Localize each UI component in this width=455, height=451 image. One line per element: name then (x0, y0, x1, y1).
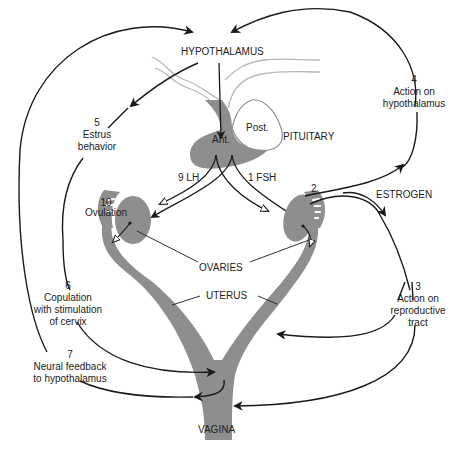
step-5-text: Estrus behavior (78, 129, 116, 152)
step-2-number: 2 (311, 183, 317, 195)
hypothalamus-label: HYPOTHALAMUS (181, 46, 264, 58)
step-5-label: 5Estrus behavior (78, 117, 116, 153)
step-7-number: 7 (67, 349, 73, 360)
anterior-pituitary-label: Ant. (212, 134, 230, 146)
step-3-label: 3Action on reproductive tract (390, 281, 445, 329)
vagina-label: VAGINA (198, 424, 235, 436)
step-10-text: Ovulation (85, 207, 127, 218)
step-3-number: 3 (415, 281, 421, 292)
posterior-pituitary-label: Post. (246, 122, 269, 134)
ovaries-label: OVARIES (199, 262, 243, 274)
step-4-text: Action on hypothalamus (383, 86, 445, 109)
pituitary-gland (190, 100, 282, 169)
lh-label: 9 LH (178, 172, 199, 184)
step-6-number: 6 (65, 280, 71, 291)
step-5-number: 5 (94, 117, 100, 128)
estrogen-label: ESTROGEN (376, 189, 432, 201)
pituitary-label: PITUITARY (283, 131, 334, 143)
step-4-number: 4 (411, 74, 417, 85)
uterus-label: UTERUS (206, 290, 247, 302)
step-3-text: Action on reproductive tract (390, 293, 445, 328)
fsh-label: 1 FSH (248, 172, 276, 184)
step-6-label: 6Copulation with stimulation of cervix (34, 280, 102, 328)
reproductive-cycle-diagram: HYPOTHALAMUS Ant. Post. PITUITARY 9 LH 1… (0, 0, 455, 451)
step-4-label: 4Action on hypothalamus (383, 74, 445, 110)
feedback-arrows (19, 9, 417, 406)
hypothalamus-outline (152, 57, 320, 108)
step-7-text: Neural feedback to hypothalamus (33, 361, 106, 384)
step-10-label: 10Ovulation (85, 198, 127, 218)
step-7-label: 7Neural feedback to hypothalamus (33, 349, 106, 385)
step-6-text: Copulation with stimulation of cervix (34, 292, 102, 327)
